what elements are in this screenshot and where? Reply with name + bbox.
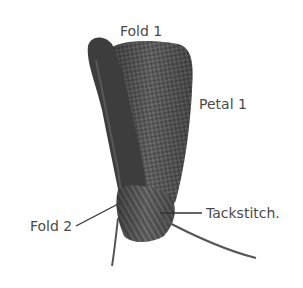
thread-tail-left <box>112 218 118 266</box>
thread-tail-right <box>160 218 256 258</box>
leader-line-fold-2 <box>76 203 120 226</box>
label-petal-1: Petal 1 <box>199 97 247 111</box>
label-tackstitch: Tackstitch. <box>206 206 280 220</box>
label-fold-2: Fold 2 <box>30 219 72 233</box>
label-fold-1: Fold 1 <box>120 24 162 38</box>
ribbon-illustration <box>0 0 303 288</box>
ribbon-petal-figure: Fold 1 Petal 1 Fold 2 Tackstitch. <box>0 0 303 288</box>
